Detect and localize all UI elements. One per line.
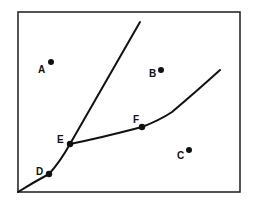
shallow-boundary-line (70, 70, 220, 144)
point-c-label: C (177, 150, 184, 161)
point-a-dot (48, 59, 54, 65)
point-a-label: A (38, 64, 45, 75)
point-d-dot (46, 171, 52, 177)
point-e-label: E (57, 134, 64, 145)
steep-boundary-line (70, 22, 140, 144)
point-f-label: F (133, 114, 139, 125)
point-c: C (177, 147, 192, 161)
point-d-label: D (36, 166, 43, 177)
point-b-dot (158, 67, 164, 73)
point-e-dot (67, 141, 73, 147)
point-b: B (149, 67, 164, 79)
point-c-dot (186, 147, 192, 153)
point-b-label: B (149, 68, 156, 79)
lower-boundary-line (18, 144, 70, 192)
point-e: E (57, 134, 73, 147)
phase-diagram: A B C D E F (0, 0, 253, 203)
diagram-frame (18, 12, 240, 192)
point-f-dot (139, 124, 145, 130)
point-f: F (133, 114, 145, 130)
point-a: A (38, 59, 54, 75)
